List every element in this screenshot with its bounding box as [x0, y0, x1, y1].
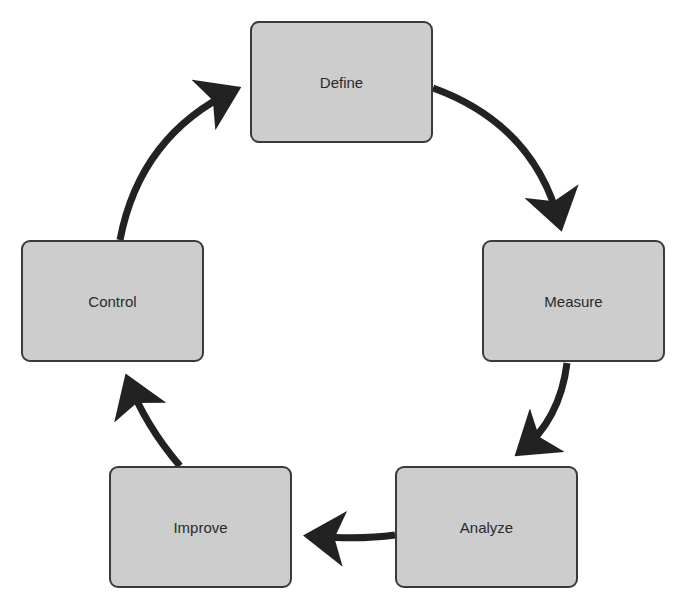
arrow-control-to-define: [120, 90, 235, 240]
step-measure: Measure: [482, 240, 665, 362]
arrow-improve-to-control: [128, 380, 180, 466]
step-control: Control: [21, 240, 204, 362]
dmaic-cycle-diagram: Define Measure Analyze Improve Control: [0, 0, 690, 615]
arrow-measure-to-analyze: [520, 363, 567, 452]
step-label: Measure: [544, 293, 602, 310]
step-label: Define: [320, 74, 363, 91]
arrow-define-to-measure: [433, 88, 560, 225]
step-improve: Improve: [109, 466, 292, 588]
step-define: Define: [250, 21, 433, 143]
step-label: Analyze: [460, 519, 513, 536]
arrow-analyze-to-improve: [310, 535, 395, 538]
step-analyze: Analyze: [395, 466, 578, 588]
step-label: Improve: [173, 519, 227, 536]
step-label: Control: [88, 293, 136, 310]
